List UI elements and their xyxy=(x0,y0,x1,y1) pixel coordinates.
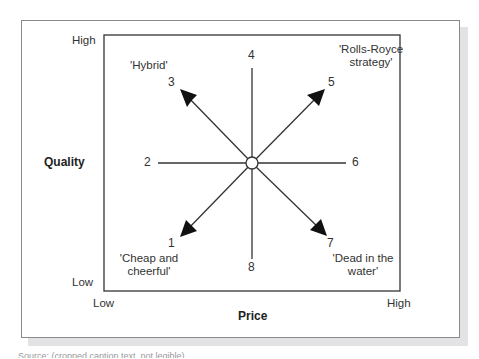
arrow-line-7 xyxy=(252,163,321,230)
strategy-label-dead-in-the-water: 'Dead in the water' xyxy=(322,252,404,278)
center-node xyxy=(246,157,258,169)
strategy-label-cheap-line2: cheerful' xyxy=(113,265,185,278)
arrow-line-1 xyxy=(186,163,252,231)
strategy-label-rolls-royce: 'Rolls-Royce strategy' xyxy=(326,43,416,69)
strategy-label-rolls-royce-line1: 'Rolls-Royce xyxy=(326,43,416,56)
x-low-label: Low xyxy=(93,297,114,310)
x-high-label: High xyxy=(387,297,411,310)
y-axis-label: Quality xyxy=(44,156,85,170)
position-number-5: 5 xyxy=(328,76,335,90)
strategy-label-rolls-royce-line2: strategy' xyxy=(326,56,416,69)
strategy-label-cheap-line1: 'Cheap and xyxy=(113,252,185,265)
strategy-label-hybrid: 'Hybrid' xyxy=(130,59,168,72)
figure-caption: Source: (cropped caption text, not legib… xyxy=(18,352,288,358)
position-number-6: 6 xyxy=(352,156,359,170)
y-low-label: Low xyxy=(72,276,93,289)
y-high-label: High xyxy=(72,34,96,47)
position-number-8: 8 xyxy=(248,261,255,275)
arrow-line-3 xyxy=(186,95,252,163)
arrow-line-5 xyxy=(252,95,319,163)
arrowhead-5-icon xyxy=(307,89,325,106)
position-number-2: 2 xyxy=(144,156,151,170)
position-number-3: 3 xyxy=(168,76,175,90)
position-number-4: 4 xyxy=(248,49,255,63)
strategy-label-dead-line2: water' xyxy=(322,265,404,278)
strategy-label-dead-line1: 'Dead in the xyxy=(322,252,404,265)
strategy-label-cheap-and-cheerful: 'Cheap and cheerful' xyxy=(113,252,185,278)
position-number-7: 7 xyxy=(327,237,334,251)
position-number-1: 1 xyxy=(168,237,175,251)
x-axis-label: Price xyxy=(238,310,267,324)
